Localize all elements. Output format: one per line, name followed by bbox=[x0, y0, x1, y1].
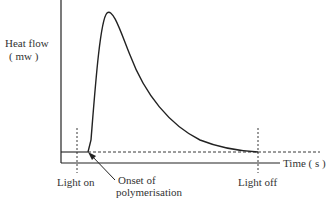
y-axis-unit: ( mw ) bbox=[9, 50, 38, 63]
light-off-label: Light off bbox=[238, 176, 277, 189]
onset-label-2: polymerisation bbox=[116, 186, 182, 198]
heat-flow-curve bbox=[88, 12, 258, 152]
y-axis-label: Heat flow bbox=[5, 37, 49, 50]
x-axis-label: Time ( s ) bbox=[283, 157, 326, 170]
light-on-label: Light on bbox=[57, 176, 95, 189]
heat-flow-diagram bbox=[0, 0, 331, 198]
